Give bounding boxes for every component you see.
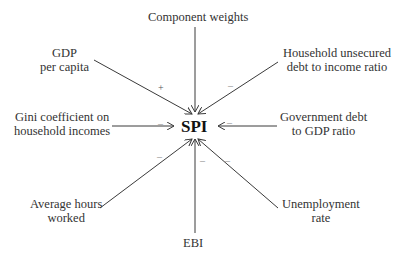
node-government-debt: Government debt to GDP ratio [280, 110, 367, 138]
spi-center-node: SPI [181, 117, 207, 137]
sign-ebi: – [200, 155, 205, 166]
node-label-line: worked [30, 211, 102, 225]
node-label-line: per capita [40, 60, 89, 74]
node-label-line: to GDP ratio [280, 124, 367, 138]
node-gini: Gini coefficient on household incomes [14, 110, 110, 138]
node-label-line: household incomes [14, 124, 110, 138]
arrow-average-hours [100, 139, 192, 208]
node-label-line: Household unsecured [283, 46, 391, 60]
node-label-line: rate [282, 211, 360, 225]
node-label-line: Average hours [30, 197, 102, 211]
node-label-line: Component weights [148, 10, 248, 24]
node-component-weights: Component weights [148, 10, 248, 24]
sign-gdp-per-capita: + [158, 82, 164, 93]
diagram-canvas: SPI Component weights GDP per capita Hou… [0, 0, 395, 261]
node-label-line: GDP [40, 46, 89, 60]
node-label-line: Government debt [280, 110, 367, 124]
arrow-household-debt [198, 62, 278, 114]
node-household-debt: Household unsecured debt to income ratio [283, 46, 391, 74]
node-gdp-per-capita: GDP per capita [40, 46, 89, 74]
node-label-line: EBI [183, 236, 203, 250]
node-ebi: EBI [183, 236, 203, 250]
node-label-line: debt to income ratio [283, 60, 391, 74]
sign-unemployment: – [225, 155, 230, 166]
sign-gini: – [158, 118, 163, 129]
node-unemployment: Unemployment rate [282, 197, 360, 225]
arrow-unemployment [198, 139, 278, 208]
node-label-line: Gini coefficient on [14, 110, 110, 124]
sign-government-debt: – [227, 117, 232, 128]
sign-household-debt: – [228, 80, 233, 91]
sign-average-hours: – [157, 151, 162, 162]
node-label-line: Unemployment [282, 197, 360, 211]
arrow-gdp-per-capita [94, 60, 192, 114]
node-average-hours: Average hours worked [30, 197, 102, 225]
